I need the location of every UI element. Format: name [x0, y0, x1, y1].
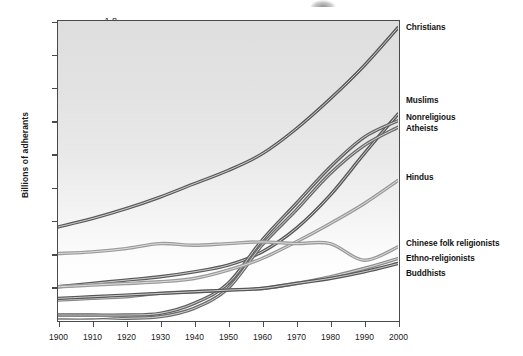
- plot-area: [57, 20, 400, 322]
- page-top-artifact: [310, 0, 336, 7]
- series-lines-svg: [58, 21, 398, 320]
- series-label-buddhists: Buddhists: [406, 269, 446, 279]
- series-line-chinese-folk-religionists: [58, 242, 398, 260]
- series-label-atheists: Atheists: [406, 124, 438, 134]
- x-axis-tick-label: 2000: [379, 332, 419, 342]
- x-axis-tick-mark: [263, 322, 265, 327]
- x-axis-tick-mark: [93, 322, 95, 327]
- x-axis-tick-mark: [399, 322, 401, 327]
- series-label-ethno-religionists: Ethno-religionists: [406, 254, 475, 264]
- x-axis-tick-mark: [59, 322, 61, 327]
- x-axis-tick-mark: [161, 322, 163, 327]
- series-label-christians: Christians: [406, 23, 446, 33]
- x-axis-tick-mark: [365, 322, 367, 327]
- series-label-chinese-folk-religionists: Chinese folk religionists: [406, 239, 499, 249]
- series-line-muslims: [58, 114, 398, 287]
- series-label-nonreligious: Nonreligious: [406, 113, 455, 123]
- religion-growth-chart: Billions of adherants 0.20.40.60.81.01.2…: [0, 0, 523, 356]
- x-axis-tick-mark: [195, 322, 197, 327]
- x-axis-tick-mark: [229, 322, 231, 327]
- series-line-hindus: [58, 180, 398, 286]
- y-axis-title: Billions of adherants: [20, 85, 30, 225]
- series-label-hindus: Hindus: [406, 173, 433, 183]
- x-axis-tick-mark: [297, 322, 299, 327]
- series-label-muslims: Muslims: [406, 96, 438, 106]
- x-axis-tick-mark: [331, 322, 333, 327]
- x-axis-tick-mark: [127, 322, 129, 327]
- series-line-christians: [58, 28, 398, 227]
